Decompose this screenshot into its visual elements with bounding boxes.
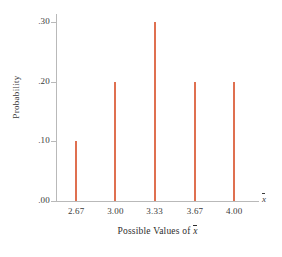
y-axis-tick-label: .30 xyxy=(22,17,50,26)
x-bar-symbol: x xyxy=(193,226,197,236)
data-spike xyxy=(154,22,156,201)
data-spike xyxy=(75,141,77,201)
y-axis-line xyxy=(56,14,57,202)
x-axis-tick-label: 3.33 xyxy=(135,207,175,216)
x-axis-end-symbol: x xyxy=(262,194,266,204)
x-axis-tick-label: 3.67 xyxy=(175,207,215,216)
x-axis-tick-label: 3.00 xyxy=(95,207,135,216)
y-axis-tick xyxy=(51,201,57,202)
y-axis-tick xyxy=(51,22,57,23)
x-bar-axis-symbol: x xyxy=(262,194,266,204)
x-axis-tick-label: 2.67 xyxy=(56,207,96,216)
probability-distribution-chart: .00.10.20.30 2.673.003.333.674.00 Probab… xyxy=(0,0,282,257)
y-axis-tick-label: .00 xyxy=(22,196,50,205)
x-axis-title: Possible Values of x xyxy=(56,226,259,236)
x-axis-title-text: Possible Values of xyxy=(117,226,193,236)
y-axis-title: Probability xyxy=(11,57,21,137)
x-axis-line xyxy=(56,201,259,202)
y-axis-tick xyxy=(51,141,57,142)
data-spike xyxy=(194,82,196,201)
plot-area: .00.10.20.30 2.673.003.333.674.00 Probab… xyxy=(0,0,282,257)
x-axis-tick-label: 4.00 xyxy=(214,207,254,216)
data-spike xyxy=(233,82,235,201)
y-axis-tick-label: .10 xyxy=(22,136,50,145)
y-axis-tick xyxy=(51,82,57,83)
data-spike xyxy=(114,82,116,201)
y-axis-tick-label: .20 xyxy=(22,77,50,86)
